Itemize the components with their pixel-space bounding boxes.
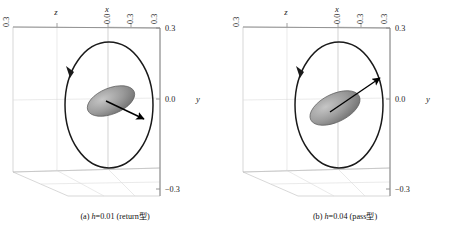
caption-a-prefix: (a): [80, 212, 91, 221]
tick-x-max-a: 0.3: [126, 14, 135, 24]
plot-a: 0.3 0.0 0.3 0.3 z x y 0.3 0.0 −0.3: [0, 0, 230, 210]
axis-label-x-b: x: [334, 4, 339, 14]
top-axis-b: [243, 23, 390, 28]
tick-y-max-b: 0.3: [395, 24, 405, 33]
tick-y-top-rot-b: 0.3: [380, 14, 389, 24]
figure-container: 0.3 0.0 0.3 0.3 z x y 0.3 0.0 −0.3 (a) h…: [0, 0, 460, 241]
axis-label-x-a: x: [104, 4, 109, 14]
plot-b: 0.3 0.0 0.3 0.3 z x y 0.3 0.0 −0.3: [230, 0, 460, 210]
top-axis-a: [13, 23, 160, 28]
tick-y-max-a: 0.3: [165, 24, 175, 33]
tick-y-top-rot-a: 0.3: [150, 14, 159, 24]
axis-label-y-b: y: [425, 94, 430, 104]
tick-y-min-b: −0.3: [395, 185, 410, 194]
left-wall-grid-a: [13, 27, 160, 172]
tick-y-zero-b: 0.0: [395, 95, 405, 104]
caption-b-prefix: (b): [313, 212, 325, 221]
caption-b-value: =0.04 (pass型): [329, 212, 378, 221]
tick-z-max-b: 0.3: [232, 17, 241, 27]
caption-b: (b) h=0.04 (pass型): [230, 211, 460, 223]
caption-a: (a) h=0.01 (return型): [0, 211, 230, 223]
left-wall-grid-b: [243, 27, 390, 172]
tick-x-max-b: 0.3: [356, 14, 365, 24]
tick-y-min-a: −0.3: [165, 185, 180, 194]
axis-label-z-b: z: [283, 7, 288, 17]
panel-b: 0.3 0.0 0.3 0.3 z x y 0.3 0.0 −0.3 (b) h…: [230, 0, 460, 241]
floor-grid-b: [243, 168, 390, 196]
tick-y-zero-a: 0.0: [165, 95, 175, 104]
panel-a: 0.3 0.0 0.3 0.3 z x y 0.3 0.0 −0.3 (a) h…: [0, 0, 230, 241]
caption-a-value: =0.01 (return型): [96, 212, 150, 221]
tick-z-max-a: 0.3: [2, 17, 11, 27]
tick-x-zero-b: 0.0: [333, 14, 342, 24]
ellipsoid-a: [83, 80, 139, 123]
tick-x-zero-a: 0.0: [103, 14, 112, 24]
floor-grid-a: [13, 168, 160, 196]
axis-label-z-a: z: [53, 7, 58, 17]
axis-label-y-a: y: [195, 94, 200, 104]
